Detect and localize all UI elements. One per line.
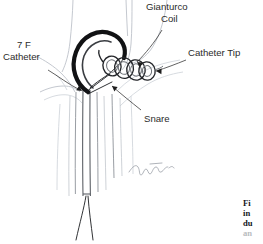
shaft-inner-right [97,92,98,192]
medical-illustration-canvas: Gianturco Coil Catheter Tip 7 F Catheter… [0,0,263,244]
arrowhead-snare [112,86,118,92]
shaft-outer-right [104,96,106,190]
label-catheter-tip: Catheter Tip [188,47,240,58]
label-gianturco-coil-line1: Gianturco [146,1,188,12]
signature-stroke-main [129,166,168,175]
catheter-shaft-right-edge [90,90,91,196]
signature-stroke-cross [150,163,162,164]
caption-line-3: du [243,218,253,228]
vessel-wall-far-left [57,104,60,190]
snare-loop-arc [74,32,125,92]
label-7f-catheter-line2: Catheter [3,51,41,62]
artist-signature [129,163,174,175]
caption-line-1: Fi [243,198,251,208]
shaft-outer-left [69,96,70,196]
snare-wire-distal-left [76,196,86,240]
shaft-shadow-right [112,94,114,178]
label-gianturco-coil-line2: Coil [161,13,178,24]
vessel-wall-right-upper [126,0,128,36]
figure-illustration-root: Gianturco Coil Catheter Tip 7 F Catheter… [0,0,263,244]
vessel-wall-far-right [131,96,133,174]
caption-line-2: in [243,208,250,218]
caption-line-4: an [243,228,252,238]
coil-loop-1 [100,54,123,79]
signature-stroke-year [169,167,174,169]
coil-tail-proximal [99,50,103,62]
gianturco-coil-group [99,50,163,82]
label-snare: Snare [144,113,170,124]
vessel-branch-left-detail [55,74,67,90]
figure-caption-truncated: Fi in du an [243,198,253,238]
vessel-wall-left-upper [62,0,73,72]
leader-snare [112,86,141,110]
shaft-shadow-right-b [120,98,122,176]
catheter-shafts [57,90,133,240]
snare-wire-distal-right [88,196,93,240]
label-7f-catheter-line1: 7 F [17,39,31,50]
shaft-inner-left [75,92,76,194]
